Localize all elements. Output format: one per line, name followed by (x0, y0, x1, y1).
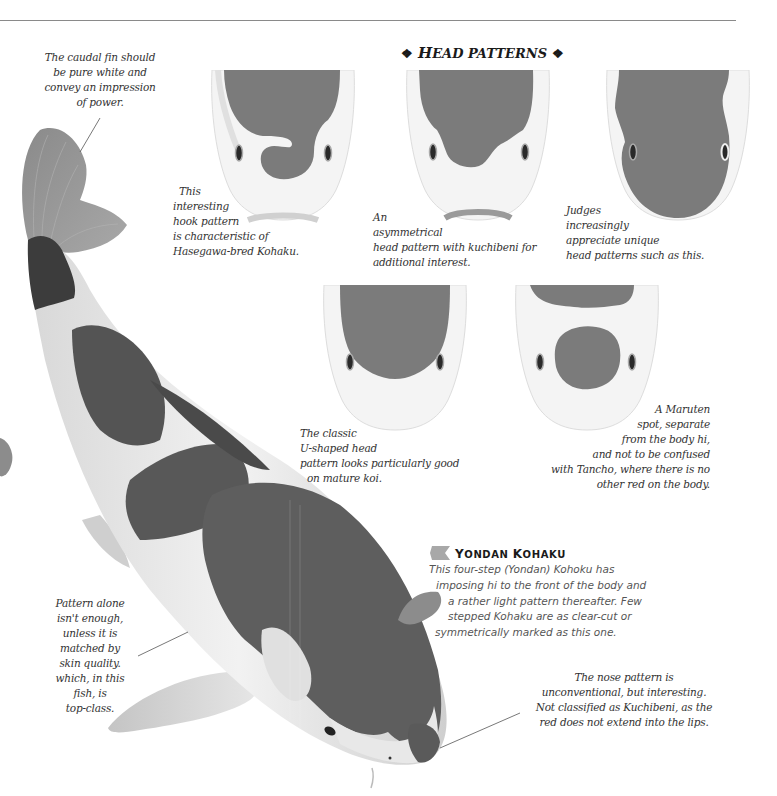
ribbon-marker-icon (430, 546, 450, 560)
yondan-line-5: symmetrically marked as this one. (435, 625, 617, 641)
caption-classic-u: The classic U-shaped head pattern looks … (300, 426, 459, 486)
section-title-head-patterns: ❖HEAD PATTERNS❖ (396, 44, 569, 62)
yondan-line-1: This four-step (Yondan) Kohoku has (429, 562, 614, 578)
yondan-line-4: stepped Kohaku are as clear-cut or (448, 609, 631, 625)
caption-caudal-fin: The caudal fin should be pure white and … (40, 50, 160, 110)
caption-judges: Judges increasingly appreciate unique he… (566, 203, 704, 263)
head-pattern-classic-u-illustration (320, 285, 470, 435)
head-pattern-unique-illustration (603, 70, 753, 225)
ornament-left-icon: ❖ (401, 46, 413, 61)
yondan-line-2: imposing hi to the front of the body and (436, 578, 646, 594)
caption-hook-pattern: This interesting hook pattern is charact… (173, 184, 299, 259)
head-pattern-asymmetrical-illustration (403, 70, 553, 225)
caption-pattern-alone: Pattern alone isn't enough, unless it is… (42, 596, 138, 716)
caption-maruten: A Maruten spot, separate from the body h… (530, 402, 710, 492)
caption-asymmetrical: An asymmetrical head pattern with kuchib… (373, 210, 536, 270)
yondan-line-3: a rather light pattern thereafter. Few (448, 594, 642, 610)
ornament-right-icon: ❖ (552, 46, 564, 61)
caption-nose-pattern: The nose pattern is unconventional, but … (524, 670, 724, 730)
yondan-kohaku-title: YONDAN KOHAKU (455, 547, 566, 561)
